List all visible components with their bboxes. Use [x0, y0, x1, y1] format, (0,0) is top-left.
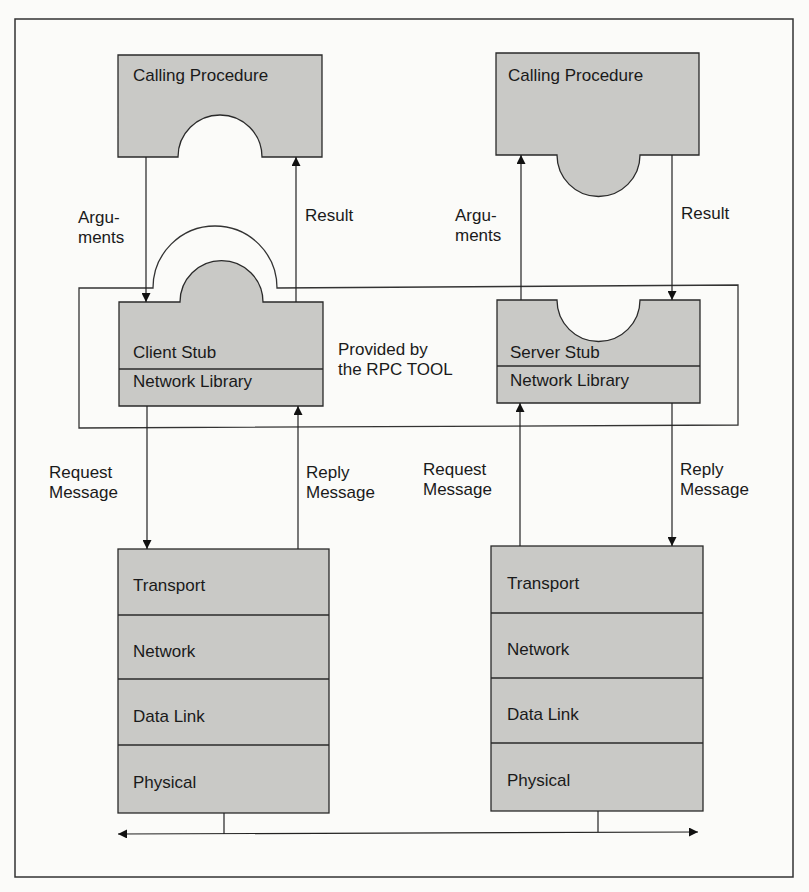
client-stub-label: Client Stub: [133, 343, 216, 363]
network-bus: [118, 832, 698, 834]
server-calling-procedure-label: Calling Procedure: [508, 66, 643, 86]
client-result-label: Result: [305, 206, 353, 226]
client-calling-procedure-label: Calling Procedure: [133, 66, 268, 86]
client-arguments-label: Argu- ments: [78, 208, 124, 248]
client-layer-data-link: Data Link: [133, 707, 205, 727]
client-reply-label: Reply Message: [306, 463, 375, 503]
client-layer-transport: Transport: [133, 576, 205, 596]
rpc-tool-label: Provided by the RPC TOOL: [338, 340, 453, 380]
client-network-library-label: Network Library: [133, 372, 252, 392]
server-layer-network: Network: [507, 640, 569, 660]
server-layer-data-link: Data Link: [507, 705, 579, 725]
diagram-canvas: [0, 0, 809, 892]
server-layer-transport: Transport: [507, 574, 579, 594]
server-stub-label: Server Stub: [510, 343, 600, 363]
server-reply-label: Reply Message: [680, 460, 749, 500]
client-layer-network: Network: [133, 642, 195, 662]
server-request-label: Request Message: [423, 460, 492, 500]
server-arguments-label: Argu- ments: [455, 206, 501, 246]
client-request-label: Request Message: [49, 463, 118, 503]
server-layer-physical: Physical: [507, 771, 570, 791]
server-result-label: Result: [681, 204, 729, 224]
server-network-library-label: Network Library: [510, 371, 629, 391]
client-layer-physical: Physical: [133, 773, 196, 793]
